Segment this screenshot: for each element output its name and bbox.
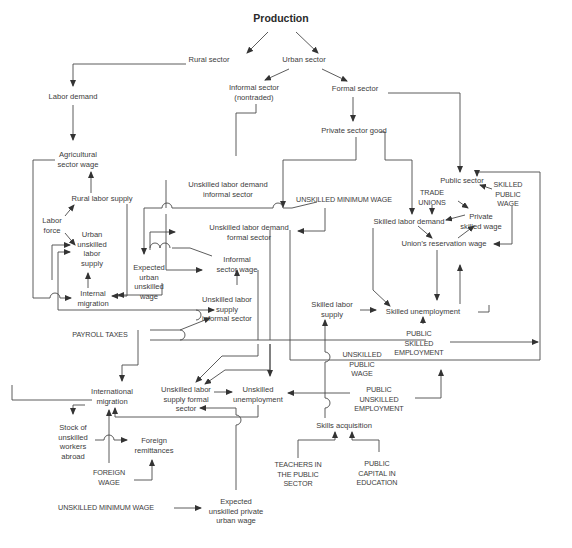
node-foreign-remittances: Foreign remittances <box>134 436 173 455</box>
node-skills-acquisition: Skills acquisition <box>316 421 372 431</box>
node-expected-urban-unskilled-wage: Expected urban unskilled wage <box>133 263 165 301</box>
node-production: Production <box>253 14 308 24</box>
node-stock-unskilled-abroad: Stock of unskilled workers abroad <box>58 423 88 461</box>
node-public-sector: Public sector <box>440 176 483 186</box>
node-unions-reservation-wage: Union’s reservation wage <box>401 239 486 249</box>
node-urban-sector: Urban sector <box>282 55 325 65</box>
node-unskilled-demand-informal: Unskilled labor demand informal sector <box>188 180 267 199</box>
node-international-migration: International migration <box>91 387 133 406</box>
node-rural-sector: Rural sector <box>189 55 230 65</box>
node-unskilled-min-wage-top: UNSKILLED MINIMUM WAGE <box>296 195 392 205</box>
node-unskilled-supply-formal: Unskilled labor supply formal sector <box>161 385 211 414</box>
node-unskilled-unemployment: Unskilled unemployment <box>233 385 283 404</box>
node-expected-unskilled-private-urban-wage: Expected unskilled private urban wage <box>209 497 263 526</box>
node-informal-sector-wage: Informal sector wage <box>217 255 258 274</box>
node-labor-force: Labor force <box>42 216 61 235</box>
node-unskilled-supply-informal: Unskilled labor supply informal sector <box>202 295 252 324</box>
node-unskilled-public-wage: UNSKILLED PUBLIC WAGE <box>342 350 381 379</box>
connector-lines <box>12 32 540 508</box>
node-rural-labor-supply: Rural labor supply <box>71 194 132 204</box>
node-trade-unions: TRADE UNIONS <box>418 188 445 207</box>
node-public-capital-education: PUBLIC CAPITAL IN EDUCATION <box>357 459 398 488</box>
node-unskilled-min-wage-bottom: UNSKILLED MINIMUM WAGE <box>58 503 154 513</box>
node-skilled-unemployment: Skilled unemployment <box>386 307 460 317</box>
node-skilled-labor-demand: Skilled labor demand <box>374 217 445 227</box>
node-skilled-public-wage: SKILLED PUBLIC WAGE <box>494 180 523 209</box>
node-informal-sector: Informal sector (nontraded) <box>229 83 279 102</box>
node-teachers-public-sector: TEACHERS IN THE PUBLIC SECTOR <box>274 460 321 489</box>
node-skilled-labor-supply: Skilled labor supply <box>311 300 352 319</box>
node-private-sector-good: Private sector good <box>321 126 386 136</box>
node-foreign-wage: FOREIGN WAGE <box>93 468 125 487</box>
node-formal-sector: Formal sector <box>332 84 378 94</box>
node-internal-migration: Internal migration <box>77 289 108 308</box>
node-public-skilled-employment: PUBLIC SKILLED EMPLOYMENT <box>394 329 443 358</box>
node-unskilled-demand-formal: Unskilled labor demand formal sector <box>209 223 288 242</box>
node-private-skilled-wage: Private skilled wage <box>460 212 501 231</box>
node-labor-demand: Labor demand <box>49 92 98 102</box>
node-urban-unskilled-labor-supply: Urban unskilled labor supply <box>77 230 107 268</box>
node-payroll-taxes: PAYROLL TAXES <box>72 330 127 340</box>
node-public-unskilled-employment: PUBLIC UNSKILLED EMPLOYMENT <box>354 385 403 414</box>
node-agricultural-sector-wage: Agricultural sector wage <box>58 150 99 169</box>
